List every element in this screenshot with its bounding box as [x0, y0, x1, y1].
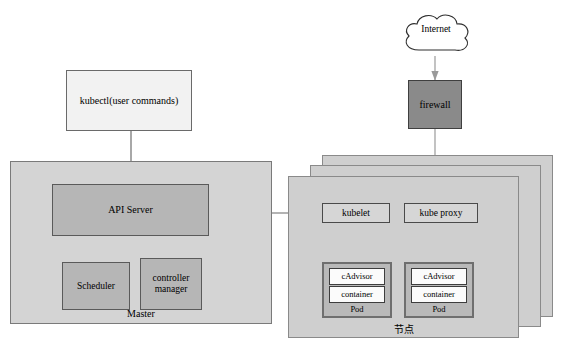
internet-label: Internet — [399, 24, 473, 34]
pod-2-cadvisor[interactable]: cAdvisor — [411, 268, 467, 285]
pod-1-cadvisor[interactable]: cAdvisor — [329, 268, 385, 285]
pod-1-label: Pod — [322, 304, 392, 314]
pod-2-container[interactable]: container — [411, 286, 467, 303]
kubelet-box[interactable]: kubelet — [322, 203, 390, 223]
pod-2-label: Pod — [404, 304, 474, 314]
kube-proxy-box[interactable]: kube proxy — [404, 203, 478, 223]
kubectl-box[interactable]: kubectl(user commands) — [66, 70, 192, 131]
internet-cloud — [399, 10, 473, 58]
master-label: Master — [10, 308, 272, 319]
controller-manager-box[interactable]: controller manager — [140, 258, 202, 310]
node-label: 节点 — [288, 321, 519, 336]
pod-1-container[interactable]: container — [329, 286, 385, 303]
diagram-canvas: Internet firewall kubectl(user commands)… — [0, 0, 563, 354]
scheduler-box[interactable]: Scheduler — [62, 262, 130, 310]
firewall-box[interactable]: firewall — [408, 80, 462, 129]
api-server-box[interactable]: API Server — [52, 184, 209, 236]
